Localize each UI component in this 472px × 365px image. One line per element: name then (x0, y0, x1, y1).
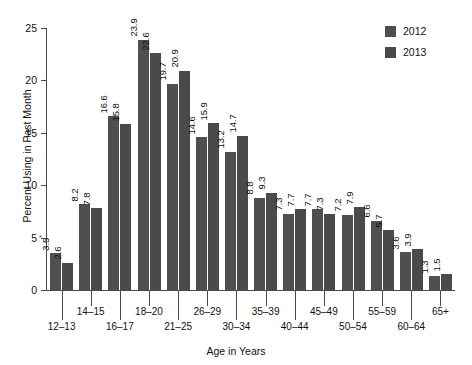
x-axis-tick (382, 290, 383, 306)
x-axis-label-26–29: 26–29 (182, 307, 232, 317)
bar-2013-30–34[interactable] (237, 136, 248, 290)
x-axis-tick (120, 290, 121, 320)
bar-value-label: 7.3 (315, 198, 325, 211)
bar-value-label: 9.3 (257, 177, 267, 190)
bar-2013-18–20[interactable] (150, 53, 161, 290)
bar-value-label: 23.9 (128, 18, 138, 36)
bar-2013-14–15[interactable] (91, 208, 102, 290)
plot-area: 0510152025 3.5*2.68.27.816.615.823.922.6… (47, 28, 455, 290)
y-axis-tick-label: 25 (11, 23, 37, 34)
y-axis-line (46, 28, 47, 291)
x-axis-tick (207, 290, 208, 306)
bar-group: 8.89.3 (254, 28, 277, 290)
bar-value-label: 3.5* (38, 235, 50, 251)
bar-value-label: 7.3 (274, 198, 284, 211)
bar-2012-65+[interactable] (429, 276, 440, 290)
bar-2012-60–64[interactable] (400, 252, 411, 290)
bar-value-label: 7.7 (303, 193, 313, 206)
bar-group: 3.63.9 (400, 28, 423, 290)
bar-value-label: 22.6 (140, 32, 150, 50)
bar-value-label: 7.7 (286, 193, 296, 206)
bar-2013-12–13[interactable] (62, 263, 73, 290)
x-axis-label-40–44: 40–44 (270, 322, 320, 332)
bar-group: 3.5*2.6 (50, 28, 73, 290)
legend: 2012 2013 (385, 25, 426, 67)
bar-group: 7.77.3 (312, 28, 335, 290)
bar-value-label: 7.8 (82, 192, 92, 205)
bar-value-label: 1.3 (419, 260, 429, 273)
bar-value-label: 7.9 (344, 191, 354, 204)
x-axis-label-55–59: 55–59 (357, 307, 407, 317)
bar-2013-45–49[interactable] (324, 214, 335, 291)
bar-group: 7.27.9 (342, 28, 365, 290)
y-axis-tick (41, 80, 47, 81)
legend-swatch-icon-2013 (385, 47, 396, 58)
x-axis-label-65+: 65+ (415, 307, 465, 317)
bar-2012-45–49[interactable] (312, 209, 323, 290)
bar-value-label: 5.7 (373, 214, 383, 227)
x-axis-label-14–15: 14–15 (66, 307, 116, 317)
y-axis-tick-label: 15 (11, 128, 37, 139)
legend-item-2013[interactable]: 2013 (385, 46, 426, 58)
legend-item-2012[interactable]: 2012 (385, 25, 426, 37)
bar-group: 13.214.7 (225, 28, 248, 290)
y-axis-tick-label: 0 (11, 285, 37, 296)
legend-label-2013: 2013 (403, 46, 426, 58)
x-axis-tick (324, 290, 325, 306)
bar-2013-16–17[interactable] (120, 124, 131, 290)
bar-value-label: 2.6 (53, 247, 63, 260)
x-axis-tick (236, 290, 237, 320)
bar-value-label: 8.8 (245, 182, 255, 195)
bar-2012-40–44[interactable] (283, 214, 294, 291)
bar-group: 19.720.9 (167, 28, 190, 290)
bar-2012-35–39[interactable] (254, 198, 265, 290)
bar-group: 1.31.5 (429, 28, 452, 290)
bar-value-label: 3.6 (390, 236, 400, 249)
legend-swatch-icon-2012 (385, 26, 396, 37)
bar-2013-65+[interactable] (441, 274, 452, 290)
x-axis-label-16–17: 16–17 (95, 322, 145, 332)
bar-group: 6.65.7 (371, 28, 394, 290)
y-axis-tick (41, 133, 47, 134)
x-axis-label-50–54: 50–54 (328, 322, 378, 332)
x-axis-tick (353, 290, 354, 320)
bar-2012-16–17[interactable] (108, 116, 119, 290)
bar-2013-50–54[interactable] (354, 207, 365, 290)
bar-2012-55–59[interactable] (371, 221, 382, 290)
x-axis-label-60–64: 60–64 (386, 322, 436, 332)
bar-2013-40–44[interactable] (295, 209, 306, 290)
y-axis-tick (41, 28, 47, 29)
bar-chart: Percent Using in Past Month 0510152025 3… (0, 0, 472, 365)
bar-group: 16.615.8 (108, 28, 131, 290)
legend-label-2012: 2012 (403, 25, 426, 37)
bar-value-label: 7.2 (332, 199, 342, 212)
bar-2012-21–25[interactable] (167, 84, 178, 290)
y-axis-tick (41, 290, 47, 291)
x-axis-tick (62, 290, 63, 320)
x-axis-label-21–25: 21–25 (153, 322, 203, 332)
x-axis-tick (295, 290, 296, 320)
x-axis-label-12–13: 12–13 (37, 322, 87, 332)
x-axis-tick (91, 290, 92, 306)
x-axis-label-45–49: 45–49 (299, 307, 349, 317)
bar-group: 7.37.7 (283, 28, 306, 290)
bar-value-label: 8.2 (70, 188, 80, 201)
x-axis-tick (149, 290, 150, 306)
bar-2012-50–54[interactable] (342, 215, 353, 290)
bar-value-label: 1.5 (431, 258, 441, 271)
bar-value-label: 15.8 (111, 103, 121, 121)
x-axis-label-18–20: 18–20 (124, 307, 174, 317)
bar-value-label: 3.9 (402, 233, 412, 246)
x-axis-title: Age in Years (0, 345, 472, 357)
bar-2013-21–25[interactable] (179, 71, 190, 290)
bar-2012-26–29[interactable] (196, 137, 207, 290)
bar-2012-14–15[interactable] (79, 204, 90, 290)
bar-2012-18–20[interactable] (138, 40, 149, 290)
bar-2012-30–34[interactable] (225, 152, 236, 290)
x-axis-line (46, 290, 455, 291)
bar-value-label: 19.7 (157, 62, 167, 80)
bar-group: 8.27.8 (79, 28, 102, 290)
bar-value-label: 20.9 (169, 50, 179, 68)
x-axis-tick (178, 290, 179, 320)
x-axis-tick (266, 290, 267, 306)
